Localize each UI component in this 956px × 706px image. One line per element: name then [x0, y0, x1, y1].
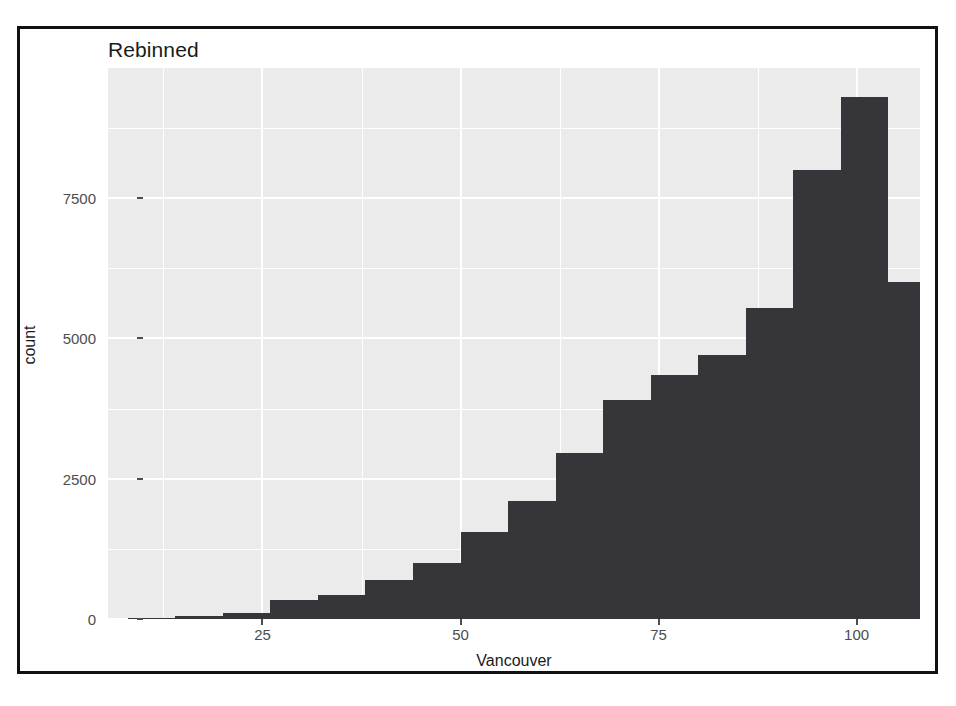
histogram-bar: [128, 618, 176, 619]
histogram-bar: [270, 600, 318, 619]
y-axis-label: count: [21, 325, 39, 364]
x-axis-tick-mark: [261, 619, 263, 625]
x-axis-tick-label: 75: [650, 626, 667, 643]
y-axis-tick-mark: [137, 478, 143, 480]
histogram-bar: [888, 282, 920, 619]
histogram-bar: [318, 595, 366, 619]
histogram-bar: [603, 400, 651, 619]
histogram-bar: [508, 501, 556, 619]
x-axis-label: Vancouver: [476, 652, 551, 670]
x-axis-tick-label: 100: [844, 626, 869, 643]
histogram-bar: [793, 170, 841, 619]
histogram-bar: [651, 375, 699, 619]
page-title: Rebinned: [108, 38, 199, 62]
x-axis-tick-mark: [856, 619, 858, 625]
y-axis-tick-mark: [137, 197, 143, 199]
gridline-x-minor: [163, 68, 164, 619]
y-axis-tick-mark: [137, 618, 143, 620]
y-axis-tick-label: 7500: [63, 190, 96, 207]
y-axis-tick-label: 0: [88, 611, 96, 628]
y-axis-ticks: 0250050007500: [38, 0, 96, 706]
histogram-bar: [841, 97, 889, 619]
chart-screenshot: Rebinned 0250050007500 255075100 count V…: [0, 0, 956, 706]
x-axis-tick-label: 50: [452, 626, 469, 643]
plot-panel: [108, 68, 920, 619]
x-axis-tick-mark: [658, 619, 660, 625]
gridline-y-minor: [108, 128, 920, 129]
x-axis-tick-label: 25: [254, 626, 271, 643]
y-axis-tick-mark: [137, 337, 143, 339]
y-axis-tick-label: 5000: [63, 330, 96, 347]
histogram-bar: [175, 616, 223, 619]
histogram-bar: [698, 355, 746, 619]
y-axis-tick-label: 2500: [63, 470, 96, 487]
histogram-bar: [556, 453, 604, 619]
histogram-bar: [746, 308, 794, 619]
histogram-bar: [461, 532, 509, 619]
histogram-bar: [413, 563, 461, 619]
gridline-x-major: [261, 68, 263, 619]
gridline-x-minor: [362, 68, 363, 619]
histogram-bar: [365, 580, 413, 619]
x-axis-tick-mark: [460, 619, 462, 625]
